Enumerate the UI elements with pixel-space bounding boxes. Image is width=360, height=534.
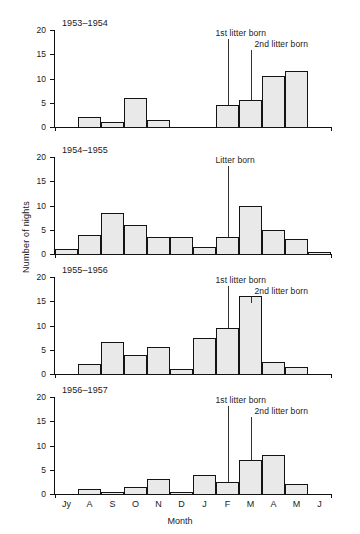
y-axis-tick-label: 20 — [8, 273, 46, 282]
x-axis-tick — [331, 494, 332, 498]
x-axis-month-label: J — [308, 499, 332, 509]
panel-title: 1954–1955 — [62, 145, 108, 155]
histogram-bar — [78, 235, 101, 255]
annotation-leader-line — [251, 50, 252, 100]
y-axis-tick — [50, 494, 54, 495]
histogram-bar — [78, 364, 101, 375]
histogram-bar — [170, 237, 193, 255]
histogram-bar — [101, 213, 124, 255]
histogram-bar — [78, 489, 101, 495]
y-axis-tick-label: 5 — [8, 346, 46, 355]
histogram-bar — [147, 237, 170, 255]
y-axis-tick-label: 0 — [8, 490, 46, 499]
histogram-bar — [55, 249, 78, 255]
histogram-bar — [308, 252, 331, 255]
y-axis-tick — [50, 301, 54, 302]
histogram-bar — [262, 230, 285, 255]
histogram-bar — [124, 487, 147, 495]
histogram-bar — [124, 98, 147, 128]
histogram-bar — [216, 105, 239, 128]
annotation-leader-line — [228, 286, 229, 328]
x-axis-month-label: M — [285, 499, 309, 509]
histogram-bar — [285, 484, 308, 495]
y-axis-tick — [50, 350, 54, 351]
x-axis-month-label: Jy — [55, 499, 79, 509]
histogram-bar — [239, 460, 262, 495]
histogram-bar — [78, 117, 101, 128]
y-axis-tick — [50, 230, 54, 231]
x-axis-tick — [331, 374, 332, 378]
histogram-bar — [193, 338, 216, 375]
y-axis-tick — [50, 54, 54, 55]
histogram-bar — [101, 342, 124, 375]
y-axis-tick — [50, 421, 54, 422]
y-axis-tick — [50, 206, 54, 207]
litter-annotation-label: 1st litter born — [216, 28, 267, 38]
x-axis-month-label: S — [101, 499, 125, 509]
litter-annotation-label: 1st litter born — [216, 275, 267, 285]
y-axis-tick — [50, 397, 54, 398]
y-axis-tick — [50, 103, 54, 104]
y-axis-tick-label: 10 — [8, 442, 46, 451]
y-axis-tick-label: 0 — [8, 250, 46, 259]
x-axis-tick — [55, 127, 56, 131]
y-axis-line — [54, 397, 55, 495]
x-axis-month-label: F — [216, 499, 240, 509]
y-axis-tick-label: 15 — [8, 50, 46, 59]
x-axis-month-label: J — [193, 499, 217, 509]
y-axis-tick-label: 20 — [8, 26, 46, 35]
panel-title: 1953–1954 — [62, 18, 108, 28]
litter-annotation-label: 1st litter born — [216, 395, 267, 405]
histogram-bar — [239, 100, 262, 128]
histogram-bar — [262, 362, 285, 375]
y-axis-tick-label: 5 — [8, 466, 46, 475]
x-axis-label: Month — [0, 516, 360, 526]
x-axis-tick — [331, 127, 332, 131]
y-axis-tick — [50, 470, 54, 471]
y-axis-tick — [50, 254, 54, 255]
annotation-leader-line — [251, 417, 252, 460]
x-axis-month-label: A — [78, 499, 102, 509]
y-axis-tick-label: 20 — [8, 153, 46, 162]
y-axis-tick-label: 0 — [8, 123, 46, 132]
histogram-figure: Number of nights 1953–1954051015201st li… — [0, 0, 360, 534]
y-axis-tick-label: 5 — [8, 99, 46, 108]
annotation-leader-line — [228, 406, 229, 482]
y-axis-tick — [50, 30, 54, 31]
y-axis-tick-label: 10 — [8, 322, 46, 331]
histogram-bar — [262, 455, 285, 495]
x-axis-month-label: N — [147, 499, 171, 509]
y-axis-tick — [50, 446, 54, 447]
panel-title: 1955–1956 — [62, 265, 108, 275]
x-axis-month-label: A — [262, 499, 286, 509]
y-axis-tick — [50, 127, 54, 128]
y-axis-tick — [50, 157, 54, 158]
histogram-bar — [147, 347, 170, 375]
litter-annotation-label: 2nd litter born — [255, 39, 308, 49]
x-axis-tick — [331, 254, 332, 258]
annotation-leader-line — [251, 297, 252, 303]
histogram-bar — [285, 71, 308, 128]
y-axis-tick-label: 15 — [8, 417, 46, 426]
litter-annotation-label: Litter born — [216, 155, 255, 165]
litter-annotation-label: 2nd litter born — [255, 406, 308, 416]
y-axis-tick-label: 20 — [8, 393, 46, 402]
annotation-leader-line — [228, 166, 229, 237]
y-axis-tick — [50, 79, 54, 80]
y-axis-tick — [50, 326, 54, 327]
y-axis-tick — [50, 181, 54, 182]
y-axis-tick — [50, 374, 54, 375]
y-axis-tick-label: 10 — [8, 75, 46, 84]
x-axis-tick — [55, 494, 56, 498]
annotation-leader-line — [228, 39, 229, 105]
histogram-bar — [147, 120, 170, 128]
histogram-bar — [170, 369, 193, 375]
x-axis-month-label: M — [239, 499, 263, 509]
y-axis-line — [54, 30, 55, 128]
histogram-bar — [124, 355, 147, 375]
y-axis-line — [54, 157, 55, 255]
y-axis-tick — [50, 277, 54, 278]
histogram-bar — [239, 296, 262, 375]
histogram-bar — [101, 122, 124, 128]
histogram-bar — [285, 367, 308, 375]
